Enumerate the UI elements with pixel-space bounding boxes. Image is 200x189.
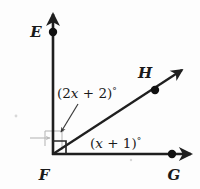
angle-hfg-degree-symbol: ° [137, 136, 142, 146]
geometry-figure: E H F G (2x + 2)° (x + 1)° [0, 0, 200, 189]
angle-hfg-mid: + 1) [103, 135, 137, 151]
point-dot-e [49, 28, 57, 36]
angle-efh-open: (2 [57, 85, 71, 101]
point-label-e: E [29, 23, 42, 41]
angle-label-efh: (2x + 2)° [57, 85, 117, 101]
angle-leader-line [61, 104, 78, 132]
figure-canvas: E H F G (2x + 2)° (x + 1)° [0, 0, 200, 189]
point-dot-h [151, 86, 159, 94]
point-dot-g [168, 150, 176, 158]
point-label-h: H [137, 64, 153, 82]
angle-efh-degree-symbol: ° [112, 86, 117, 96]
point-label-f: F [38, 166, 51, 184]
angle-efh-mid: + 2) [78, 85, 112, 101]
angle-label-hfg: (x + 1)° [90, 135, 141, 151]
point-label-g: G [168, 166, 181, 184]
